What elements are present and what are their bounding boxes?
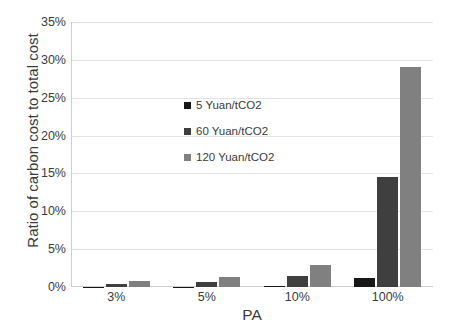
x-axis-tick-label: 100%	[372, 290, 404, 304]
legend-item-label: 5 Yuan/tCO2	[196, 99, 262, 111]
x-axis-tick-label: 10%	[285, 290, 310, 304]
y-axis-tick-label: 0%	[0, 280, 66, 294]
bar	[196, 282, 217, 287]
bar	[219, 277, 240, 287]
bar	[310, 265, 331, 287]
legend-item[interactable]: 5 Yuan/tCO2	[184, 99, 274, 111]
y-axis-tick-label: 10%	[0, 204, 66, 218]
bar	[129, 281, 150, 287]
x-axis-title: PA	[71, 306, 433, 324]
x-axis-tick-label: 3%	[107, 290, 125, 304]
x-axis-tick-label: 5%	[198, 290, 216, 304]
bar-group	[343, 22, 434, 287]
bar	[264, 286, 285, 287]
bar-group	[71, 22, 162, 287]
y-axis-tick-labels: 0%5%10%15%20%25%30%35%	[0, 22, 66, 287]
y-axis-tick-label: 20%	[0, 129, 66, 143]
y-axis-tick-label: 35%	[0, 15, 66, 29]
legend-swatch-icon	[184, 154, 191, 161]
bar	[106, 284, 127, 287]
y-axis-tick-label: 25%	[0, 91, 66, 105]
legend-item-label: 120 Yuan/tCO2	[196, 151, 274, 163]
y-axis-tick-label: 15%	[0, 166, 66, 180]
bar	[400, 67, 421, 287]
legend-swatch-icon	[184, 102, 191, 109]
bar	[354, 278, 375, 287]
y-axis-tick-label: 5%	[0, 242, 66, 256]
legend-swatch-icon	[184, 128, 191, 135]
bar	[287, 276, 308, 287]
chart-legend: 5 Yuan/tCO260 Yuan/tCO2120 Yuan/tCO2	[184, 99, 274, 163]
legend-item[interactable]: 60 Yuan/tCO2	[184, 125, 274, 137]
bar-chart: Ratio of carbon cost to total cost 0%5%1…	[0, 0, 453, 331]
legend-item-label: 60 Yuan/tCO2	[196, 125, 268, 137]
bar	[377, 177, 398, 287]
legend-item[interactable]: 120 Yuan/tCO2	[184, 151, 274, 163]
y-axis-tick-label: 30%	[0, 53, 66, 67]
